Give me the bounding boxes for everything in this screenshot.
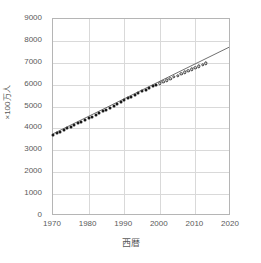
x-tick-label: 1990 (114, 219, 132, 228)
y-tick-label: 3000 (24, 145, 42, 153)
y-tick-label: 8000 (24, 36, 42, 44)
y-tick-label: 6000 (24, 80, 42, 88)
y-tick-label: 5000 (24, 102, 42, 110)
population-chart: 0100020003000400050006000700080009000 ×1… (0, 0, 261, 263)
x-tick-label: 1980 (79, 219, 97, 228)
x-axis-title: 西暦 (0, 238, 261, 248)
x-tick-label: 2000 (150, 219, 168, 228)
y-tick-label: 2000 (24, 167, 42, 175)
x-tick-label: 2010 (185, 219, 203, 228)
y-tick-label: 0 (38, 211, 42, 219)
x-axis: 197019801990200020102020 (52, 219, 230, 233)
y-tick-label: 7000 (24, 58, 42, 66)
x-tick-label: 2020 (221, 219, 239, 228)
y-tick-label: 4000 (24, 123, 42, 131)
x-tick-label: 1970 (43, 219, 61, 228)
y-tick-label: 1000 (24, 189, 42, 197)
y-axis-title: ×100万人 (3, 66, 12, 140)
y-tick-label: 9000 (24, 14, 42, 22)
plot-area (52, 18, 230, 215)
trend-line (53, 19, 229, 214)
